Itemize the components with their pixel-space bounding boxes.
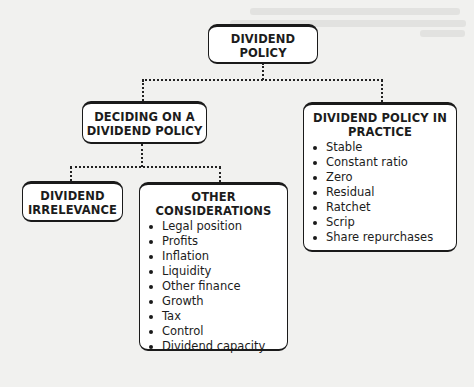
- other-considerations-list: Legal position Profits Inflation Liquidi…: [140, 219, 287, 354]
- list-item: Liquidity: [148, 264, 287, 279]
- connector-level2-horizontal: [70, 166, 221, 168]
- connector-root-down: [262, 63, 264, 80]
- node-title: IRRELEVANCE: [23, 203, 122, 217]
- node-other-considerations: OTHER CONSIDERATIONS Legal position Prof…: [139, 182, 288, 351]
- list-item: Other finance: [148, 279, 287, 294]
- connector-to-other: [219, 167, 221, 182]
- node-title: POLICY: [209, 46, 317, 60]
- connector-to-irrelevance: [70, 167, 72, 181]
- connector-level1-horizontal: [142, 79, 383, 81]
- node-deciding-on-dividend-policy: DECIDING ON A DIVIDEND POLICY: [82, 101, 207, 144]
- list-item: Legal position: [148, 219, 287, 234]
- list-item: Profits: [148, 234, 287, 249]
- list-item: Control: [148, 324, 287, 339]
- node-title: PRACTICE: [304, 125, 456, 139]
- list-item: Constant ratio: [312, 155, 456, 170]
- node-dividend-policy-in-practice: DIVIDEND POLICY IN PRACTICE Stable Const…: [303, 102, 457, 252]
- list-item: Growth: [148, 294, 287, 309]
- node-title: DIVIDEND POLICY: [83, 124, 206, 138]
- connector-to-practice: [381, 80, 383, 102]
- list-item: Dividend capacity: [148, 339, 287, 354]
- node-dividend-policy: DIVIDEND POLICY: [208, 24, 318, 64]
- node-title: OTHER CONSIDERATIONS: [140, 190, 287, 218]
- list-item: Residual: [312, 185, 456, 200]
- list-item: Share repurchases: [312, 230, 456, 245]
- node-title: DECIDING ON A: [83, 110, 206, 124]
- node-title: DIVIDEND: [23, 189, 122, 203]
- list-item: Tax: [148, 309, 287, 324]
- practice-list: Stable Constant ratio Zero Residual Ratc…: [304, 140, 456, 245]
- list-item: Stable: [312, 140, 456, 155]
- list-item: Zero: [312, 170, 456, 185]
- list-item: Scrip: [312, 215, 456, 230]
- list-item: Ratchet: [312, 200, 456, 215]
- connector-to-deciding: [142, 80, 144, 101]
- connector-deciding-down: [141, 144, 143, 167]
- node-dividend-irrelevance: DIVIDEND IRRELEVANCE: [22, 181, 123, 222]
- list-item: Inflation: [148, 249, 287, 264]
- node-title: DIVIDEND: [209, 32, 317, 46]
- node-title: DIVIDEND POLICY IN: [304, 111, 456, 125]
